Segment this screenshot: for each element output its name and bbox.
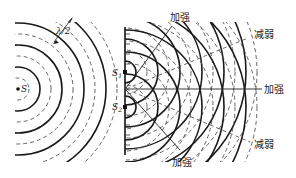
- destructive-bottom-label: 减弱: [254, 139, 274, 150]
- slit1-label: S1: [112, 68, 122, 79]
- constructive-center-label: 加强: [264, 84, 284, 95]
- source-point: [16, 87, 20, 91]
- constructive-bottom-label: 加强: [172, 157, 192, 168]
- slit2-label: S2: [112, 102, 122, 113]
- source-label: S: [21, 84, 27, 94]
- constructive-top-label: 加强: [170, 12, 190, 23]
- destructive-top-label: 减弱: [254, 29, 274, 40]
- interference-diagram: λ/2 S S1 S2 加强 减弱 加强 减弱 加强: [0, 0, 296, 178]
- wavelength-label: λ/2: [55, 26, 71, 36]
- slit2-point: [123, 105, 127, 109]
- slit1-point: [123, 70, 127, 74]
